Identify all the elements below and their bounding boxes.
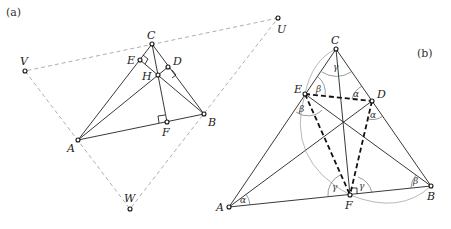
label-e: E [293,83,302,96]
angle-alpha-a: α [240,195,246,205]
label-w: W [124,192,137,205]
panel-a: (a) A B C D E F H U V W [6,6,287,211]
label-d: D [376,88,386,101]
label-a: A [66,142,75,155]
point-v [23,69,27,73]
right-angle-f [158,115,165,123]
point-a [227,205,231,209]
point-e [138,58,142,62]
angle-alpha-d-top: α [353,89,359,99]
triangle-abc [229,49,431,207]
label-a: A [215,201,224,214]
angle-arc-c [322,72,351,76]
label-b: B [207,116,216,129]
angle-beta-b: β [412,176,418,186]
angle-gamma-f-right: γ [359,181,365,191]
point-b [202,112,206,116]
angle-beta-e-bottom: β [298,104,304,114]
panel-b-tag: (b) [417,47,433,60]
point-f [348,193,352,197]
altitude-be [305,94,431,186]
angle-gamma-f-left: γ [332,182,338,192]
geometry-figure: (a) A B C D E F H U V W [0,0,451,229]
label-f: F [344,199,353,212]
point-c [334,47,338,51]
label-h: H [141,70,152,83]
angle-beta-e-top: β [315,84,321,94]
point-b [429,184,433,188]
panel-a-tag: (a) [6,6,21,19]
altitude-be [140,60,204,114]
right-angle-f [352,188,357,194]
point-a [76,138,80,142]
point-c [150,42,154,46]
label-e: E [126,54,135,67]
label-f: F [161,126,170,139]
label-v: V [20,55,29,68]
point-f [165,120,169,124]
altitude-cf [152,44,167,122]
angle-arc-a [246,194,250,205]
label-c: C [331,34,340,47]
point-d [370,99,374,103]
label-d: D [172,55,182,68]
label-u: U [277,23,287,36]
label-c: C [147,29,156,42]
panel-b: (b) γ β β α α α γ γ β [215,34,435,214]
point-h [156,73,160,77]
outer-triangle-uvw [25,18,278,209]
altitude-ad [78,67,168,140]
point-e [303,92,307,96]
point-d [166,65,170,69]
angle-gamma-c: γ [333,62,339,72]
orthic-side-ed [305,94,372,101]
point-u [276,16,280,20]
point-w [128,207,132,211]
label-b: B [426,190,435,203]
angle-alpha-d-bottom: α [370,110,376,120]
